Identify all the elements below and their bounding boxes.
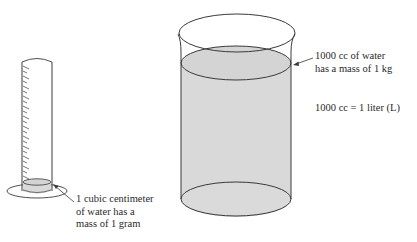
- cylinder-water-surface: [23, 179, 51, 185]
- cylinder-mass-label: 1 cubic centimeter of water has a mass o…: [76, 193, 154, 231]
- beaker-pointer-arrow: [293, 58, 313, 66]
- beaker: [178, 14, 313, 217]
- beaker-label-line-2: has a mass of 1 kg: [315, 63, 392, 76]
- beaker-label-line-1: 1000 cc of water: [315, 50, 392, 63]
- beaker-left-wall: [178, 34, 181, 199]
- graduation-ticks: [23, 66, 29, 179]
- cylinder-label-line-3: mass of 1 gram: [76, 218, 154, 231]
- beaker-bottom: [181, 182, 291, 216]
- beaker-water-surface: [181, 46, 291, 80]
- graduated-cylinder: [7, 59, 74, 203]
- diagram-illustration: [0, 0, 417, 242]
- cylinder-label-line-1: 1 cubic centimeter: [76, 193, 154, 206]
- liter-equivalence-label: 1000 cc = 1 liter (L): [315, 102, 400, 115]
- cylinder-label-line-2: of water has a: [76, 206, 154, 219]
- water-volume-mass-diagram: 1 cubic centimeter of water has a mass o…: [0, 0, 417, 242]
- cylinder-top-rim: [22, 59, 52, 63]
- beaker-right-wall: [291, 34, 295, 199]
- beaker-mass-label: 1000 cc of water has a mass of 1 kg: [315, 50, 392, 75]
